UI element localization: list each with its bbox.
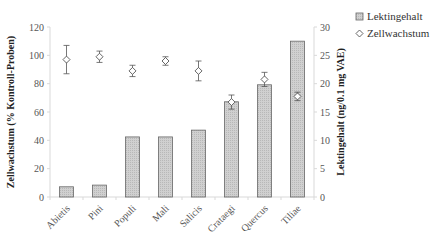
category-label: Quercus — [239, 203, 270, 234]
bar-abietis — [60, 187, 74, 197]
lektingehalt-bars — [60, 41, 305, 197]
combo-chart: 020406080100120 051015202530 AbietisPini… — [0, 0, 442, 251]
open-diamond-icon — [162, 58, 169, 65]
category-label: Salicis — [177, 203, 204, 230]
category-label: Pini — [86, 202, 105, 221]
open-diamond-icon — [96, 53, 103, 60]
right-tick-label: 20 — [320, 78, 330, 89]
point-populi — [129, 65, 136, 76]
bar-populi — [126, 137, 140, 197]
left-tick-label: 60 — [34, 107, 44, 118]
legend-item-lektingehalt: Lektingehalt — [356, 10, 423, 22]
x-axis — [50, 197, 314, 200]
left-tick-label: 40 — [34, 135, 44, 146]
category-label: Mali — [150, 202, 171, 223]
right-tick-label: 5 — [320, 163, 325, 174]
open-diamond-icon — [195, 67, 202, 74]
left-axis: 020406080100120 — [29, 22, 50, 203]
right-tick-label: 25 — [320, 50, 330, 61]
right-axis: 051015202530 — [314, 22, 330, 203]
left-axis-title: Zellwachstum (% Kontroll-Proben) — [5, 36, 17, 188]
bar-mali — [159, 137, 173, 197]
category-label: Abietis — [44, 203, 72, 231]
left-tick-label: 100 — [29, 50, 44, 61]
open-diamond-icon — [63, 56, 70, 63]
point-salicis — [195, 61, 202, 81]
legend-label: Zellwachstum — [367, 27, 430, 39]
right-axis-title: Lektingehalt (ng/0.1 mg VAE) — [335, 48, 347, 175]
category-labels: AbietisPiniPopuliMaliSalicisCrataegiQuer… — [44, 202, 304, 234]
point-pini — [96, 51, 103, 62]
open-diamond-icon — [356, 30, 363, 37]
bar-salicis — [192, 130, 206, 197]
open-diamond-icon — [261, 76, 268, 83]
legend-label: Lektingehalt — [367, 10, 423, 22]
bar-crataegi — [225, 102, 239, 197]
category-label: Crataegi — [205, 202, 237, 234]
left-tick-label: 80 — [34, 78, 44, 89]
point-quercus — [261, 72, 268, 86]
legend: Lektingehalt Zellwachstum — [356, 10, 430, 39]
left-tick-label: 120 — [29, 22, 44, 33]
bar-quercus — [258, 85, 272, 197]
bar-tiliae — [291, 41, 305, 197]
legend-item-zellwachstum: Zellwachstum — [356, 27, 430, 39]
point-mali — [162, 57, 169, 66]
left-tick-label: 0 — [39, 192, 44, 203]
left-tick-label: 20 — [34, 163, 44, 174]
right-tick-label: 0 — [320, 192, 325, 203]
category-label: Tiliae — [279, 202, 303, 226]
gray-square-icon — [356, 13, 363, 20]
point-abietis — [63, 45, 70, 73]
open-diamond-icon — [129, 67, 136, 74]
right-tick-label: 15 — [320, 107, 330, 118]
right-tick-label: 30 — [320, 22, 330, 33]
bar-pini — [93, 185, 107, 197]
category-label: Populi — [112, 202, 138, 228]
right-tick-label: 10 — [320, 135, 330, 146]
